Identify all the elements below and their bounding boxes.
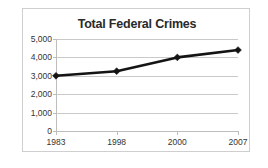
x-axis-tick-mark: [177, 131, 178, 135]
data-point-marker: [174, 54, 181, 61]
x-axis-tick-mark: [117, 131, 118, 135]
y-axis-tick-label: 4,000: [8, 52, 52, 62]
chart-canvas: Total Federal Crimes 01,0002,0003,0004,0…: [0, 0, 268, 168]
x-axis-tick-label: 2000: [155, 137, 199, 147]
series-plot: [56, 39, 238, 131]
x-axis-tick-label: 1983: [34, 137, 78, 147]
x-axis-line: [56, 131, 238, 132]
plot-area: 01,0002,0003,0004,0005,000 1983199820002…: [56, 39, 238, 131]
data-point-marker: [235, 47, 242, 54]
x-axis-tick-mark: [238, 131, 239, 135]
chart-frame: Total Federal Crimes 01,0002,0003,0004,0…: [22, 8, 250, 152]
chart-title: Total Federal Crimes: [23, 17, 251, 31]
x-axis-tick-label: 2007: [216, 137, 260, 147]
y-axis-tick-label: 0: [8, 126, 52, 136]
data-point-marker: [53, 72, 60, 79]
x-axis-tick-label: 1998: [95, 137, 139, 147]
x-axis-tick-mark: [56, 131, 57, 135]
data-point-marker: [113, 68, 120, 75]
y-axis-tick-label: 2,000: [8, 89, 52, 99]
series-line-total-federal-crimes: [56, 50, 238, 76]
y-axis-tick-label: 1,000: [8, 108, 52, 118]
y-axis-tick-label: 5,000: [8, 34, 52, 44]
y-axis-tick-label: 3,000: [8, 71, 52, 81]
